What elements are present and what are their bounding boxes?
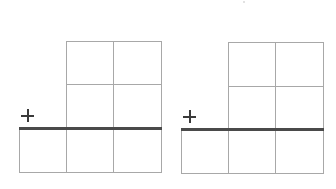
addition-problem-2 bbox=[0, 0, 336, 189]
answer-tens-box[interactable] bbox=[228, 129, 276, 174]
scan-speck bbox=[243, 1, 245, 3]
sum-line bbox=[181, 128, 324, 131]
addend-2-ones-box[interactable] bbox=[275, 86, 324, 130]
addend-1-tens-box[interactable] bbox=[228, 42, 276, 87]
addend-1-ones-box[interactable] bbox=[275, 42, 324, 87]
answer-ones-box[interactable] bbox=[275, 129, 324, 174]
answer-hundreds-box[interactable] bbox=[181, 129, 229, 174]
plus-icon bbox=[183, 110, 196, 123]
addend-2-tens-box[interactable] bbox=[228, 86, 276, 130]
